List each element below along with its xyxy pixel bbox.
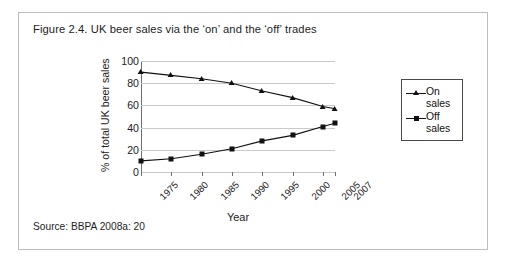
data-point-marker bbox=[169, 156, 174, 161]
legend-item-on: On sales bbox=[406, 86, 457, 109]
legend-label-off: Off sales bbox=[426, 111, 450, 134]
chart-plot-area: % of total UK beer sales 020406080100 19… bbox=[103, 51, 413, 226]
data-point-marker bbox=[168, 72, 174, 77]
data-point-marker bbox=[319, 104, 325, 109]
x-tick bbox=[323, 172, 324, 176]
series-line-on-sales bbox=[141, 72, 335, 109]
x-tick bbox=[293, 172, 294, 176]
data-point-marker bbox=[289, 95, 295, 100]
legend-label-on: On sales bbox=[426, 86, 450, 109]
x-tick bbox=[232, 172, 233, 176]
x-tick-label: 1995 bbox=[279, 179, 302, 202]
data-point-marker bbox=[229, 146, 234, 151]
data-point-marker bbox=[259, 88, 265, 93]
plot-canvas: 020406080100 197519801985199019952000200… bbox=[141, 61, 335, 172]
data-point-marker bbox=[198, 76, 204, 81]
y-tick-label: 40 bbox=[113, 122, 139, 134]
data-point-marker bbox=[320, 124, 325, 129]
y-axis-label: % of total UK beer sales bbox=[99, 61, 111, 172]
data-point-marker bbox=[260, 138, 265, 143]
x-tick-label: 2000 bbox=[309, 179, 332, 202]
legend-item-off: Off sales bbox=[406, 111, 457, 134]
legend-label-off-line1: Off bbox=[426, 111, 440, 122]
x-tick bbox=[202, 172, 203, 176]
data-point-marker bbox=[199, 152, 204, 157]
figure-title: Figure 2.4. UK beer sales via the ‘on’ a… bbox=[33, 23, 317, 35]
data-point-marker bbox=[138, 69, 144, 74]
source-note: Source: BBPA 2008a: 20 bbox=[33, 221, 145, 232]
x-tick bbox=[262, 172, 263, 176]
x-tick-label: 1985 bbox=[218, 179, 241, 202]
triangle-marker-icon bbox=[406, 87, 426, 99]
y-tick-label: 0 bbox=[113, 166, 139, 178]
data-point-marker bbox=[290, 133, 295, 138]
legend-label-on-line2: sales bbox=[426, 98, 450, 109]
y-tick-label: 100 bbox=[113, 55, 139, 67]
data-point-marker bbox=[228, 80, 234, 85]
data-point-marker bbox=[332, 106, 338, 111]
legend-label-off-line2: sales bbox=[426, 123, 450, 134]
x-tick-label: 1990 bbox=[248, 179, 271, 202]
x-tick bbox=[171, 172, 172, 176]
x-tick-label: 1980 bbox=[188, 179, 211, 202]
x-axis-label: Year bbox=[141, 211, 335, 223]
x-tick-label: 1975 bbox=[157, 179, 180, 202]
x-tick bbox=[335, 172, 336, 176]
square-marker-icon bbox=[406, 112, 426, 124]
y-tick-label: 60 bbox=[113, 99, 139, 111]
gridline bbox=[141, 172, 335, 173]
chart-legend: On sales Off sales bbox=[401, 79, 463, 141]
legend-label-on-line1: On bbox=[426, 86, 440, 97]
x-tick bbox=[141, 172, 142, 176]
y-tick-label: 20 bbox=[113, 144, 139, 156]
data-point-marker bbox=[139, 158, 144, 163]
y-tick-label: 80 bbox=[113, 77, 139, 89]
data-point-marker bbox=[333, 121, 338, 126]
figure-container: Figure 2.4. UK beer sales via the ‘on’ a… bbox=[18, 12, 488, 250]
